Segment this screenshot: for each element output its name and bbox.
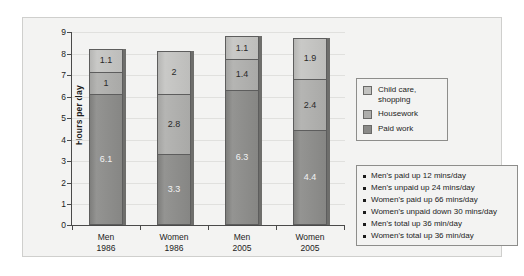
note-text: Women's paid up 66 mins/day [371,195,478,205]
legend-item-housework[interactable]: Housework [363,109,442,119]
y-tick-label-1: 1 [52,199,66,209]
chart-legend: Child care, shopping Housework Paid work [356,78,448,141]
x-label-women-2005: Women 2005 [275,232,345,254]
note-item: Women's paid up 66 mins/day [363,195,512,205]
segment-child-care: 2 [157,51,191,94]
x-label-year: 1986 [71,243,141,254]
y-tick-9 [67,32,72,33]
note-item: Women's total up 36 min/day [363,231,512,241]
y-tick-label-0: 0 [52,220,66,230]
bar-men-2005[interactable]: 1.1 1.4 6.3 [225,36,259,225]
legend-label-housework: Housework [378,109,418,119]
note-text: Women's unpaid down 30 mins/day [371,207,497,217]
y-axis-line [71,32,72,226]
paid-work-swatch-icon [363,125,372,134]
y-tick-label-3: 3 [52,156,66,166]
x-label-group: Men [71,232,141,243]
y-tick-6 [67,97,72,98]
chart-panel: Hours per day 9 8 [22,17,502,257]
plot-area: 9 8 7 6 5 4 3 2 1 0 1.1 1 [71,32,345,226]
x-label-year: 2005 [207,243,277,254]
x-label-group: Men [207,232,277,243]
y-tick-label-8: 8 [52,49,66,59]
y-tick-1 [67,204,72,205]
legend-label-child-care: Child care, shopping [378,85,416,104]
legend-item-paid-work[interactable]: Paid work [363,124,442,134]
note-item: Men's unpaid up 24 mins/day [363,183,512,193]
x-label-men-1986: Men 1986 [71,232,141,254]
x-label-men-2005: Men 2005 [207,232,277,254]
bullet-icon [363,175,366,178]
segment-housework: 2.8 [157,94,191,154]
note-text: Men's unpaid up 24 mins/day [371,183,475,193]
x-tick-0 [72,225,73,230]
x-label-women-1986: Women 1986 [139,232,209,254]
x-label-group: Women [139,232,209,243]
bullet-icon [363,235,366,238]
x-label-year: 1986 [139,243,209,254]
segment-paid-work: 6.1 [89,94,123,225]
legend-item-child-care[interactable]: Child care, shopping [363,85,442,104]
chart-screenshot: Hours per day 9 8 [0,0,524,276]
segment-housework: 1 [89,72,123,94]
x-label-group: Women [275,232,345,243]
legend-label-paid-work: Paid work [378,124,413,134]
bullet-icon [363,223,366,226]
note-item: Men's total up 36 min/day [363,219,512,229]
y-tick-label-6: 6 [52,92,66,102]
y-tick-5 [67,118,72,119]
y-tick-label-4: 4 [52,135,66,145]
note-text: Men's total up 36 min/day [371,219,462,229]
note-item: Men's paid up 12 mins/day [363,171,512,181]
notes-box: Men's paid up 12 mins/day Men's unpaid u… [356,165,518,246]
y-tick-8 [67,54,72,55]
y-tick-3 [67,161,72,162]
y-tick-label-2: 2 [52,178,66,188]
segment-paid-work: 6.3 [225,90,259,226]
y-tick-2 [67,183,72,184]
x-tick-3 [276,225,277,230]
y-tick-7 [67,75,72,76]
segment-child-care: 1.1 [225,36,259,60]
y-tick-label-5: 5 [52,113,66,123]
x-tick-4 [344,225,345,230]
x-tick-2 [208,225,209,230]
segment-paid-work: 4.4 [293,130,327,225]
note-text: Men's paid up 12 mins/day [371,171,466,181]
bullet-icon [363,199,366,202]
housework-swatch-icon [363,110,372,119]
bar-women-1986[interactable]: 2 2.8 3.3 [157,51,191,225]
child-care-swatch-icon [363,86,372,95]
segment-child-care: 1.9 [293,38,327,79]
segment-housework: 1.4 [225,59,259,89]
y-tick-label-7: 7 [52,70,66,80]
gridline-9 [72,32,345,33]
segment-child-care: 1.1 [89,49,123,73]
x-tick-1 [140,225,141,230]
bullet-icon [363,187,366,190]
x-label-year: 2005 [275,243,345,254]
bar-women-2005[interactable]: 1.9 2.4 4.4 [293,38,327,225]
y-tick-label-9: 9 [52,27,66,37]
note-item: Women's unpaid down 30 mins/day [363,207,512,217]
bullet-icon [363,211,366,214]
y-tick-4 [67,140,72,141]
segment-paid-work: 3.3 [157,154,191,225]
segment-housework: 2.4 [293,79,327,131]
note-text: Women's total up 36 min/day [371,231,474,241]
bar-men-1986[interactable]: 1.1 1 6.1 [89,49,123,225]
